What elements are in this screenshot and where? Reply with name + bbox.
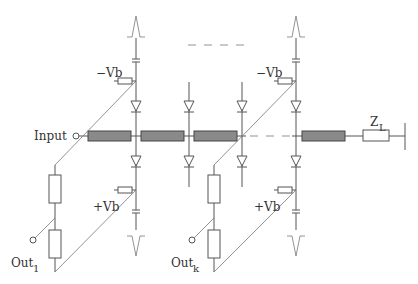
out-k-subscript: k bbox=[193, 263, 200, 274]
input-terminal bbox=[73, 133, 79, 139]
positive-pulse-icon bbox=[127, 16, 145, 37]
output-resistor-upper bbox=[49, 175, 61, 203]
diode-top bbox=[291, 101, 301, 111]
tline-segment-2 bbox=[141, 131, 184, 141]
out-1-subscript: 1 bbox=[33, 263, 39, 274]
output-terminal-1 bbox=[30, 237, 36, 243]
pos-bias-label-1: +Vb bbox=[93, 200, 120, 214]
neg-bias-label-1: −Vb bbox=[96, 66, 123, 80]
neg-bias-label-k: −Vb bbox=[256, 66, 283, 80]
output-resistor-lower bbox=[49, 230, 61, 258]
bias-resistor-bottom bbox=[118, 187, 132, 193]
load-label: Z bbox=[370, 115, 378, 129]
pos-bias-label-k: +Vb bbox=[254, 200, 281, 214]
diode-bottom bbox=[291, 156, 301, 166]
positive-pulse-icon bbox=[287, 16, 305, 37]
out-k-label: Out bbox=[171, 256, 194, 270]
input-label: Input bbox=[34, 129, 67, 143]
diode-bottom bbox=[131, 156, 141, 166]
output-terminal-k bbox=[189, 237, 195, 243]
stage-k bbox=[189, 16, 305, 272]
tline-segment-4 bbox=[302, 131, 345, 141]
stage-1 bbox=[30, 16, 145, 272]
load-subscript: L bbox=[379, 122, 386, 133]
diode-top bbox=[131, 101, 141, 111]
tline-segment-3 bbox=[194, 131, 237, 141]
out-1-label: Out bbox=[11, 256, 34, 270]
main-line bbox=[73, 123, 405, 150]
negative-pulse-icon bbox=[287, 236, 305, 256]
tline-segment-1 bbox=[88, 131, 131, 141]
bias-resistor-bottom bbox=[278, 187, 292, 193]
negative-pulse-icon bbox=[127, 236, 145, 256]
output-resistor-lower bbox=[208, 230, 220, 258]
output-resistor-upper bbox=[208, 175, 220, 203]
circuit-diagram: Input −Vb +Vb −Vb +Vb Out 1 Out k Z L bbox=[0, 0, 418, 284]
